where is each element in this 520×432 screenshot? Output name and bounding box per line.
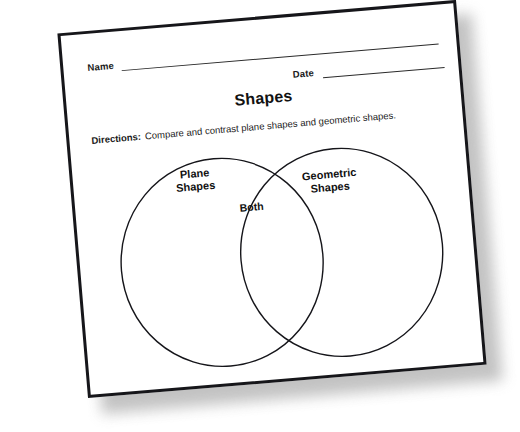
worksheet-scene: Name Date Shapes Directions:Compare and … bbox=[0, 0, 520, 432]
worksheet-content: Name Date Shapes Directions:Compare and … bbox=[61, 3, 484, 395]
venn-diagram: Plane Shapes Geometric Shapes Both bbox=[95, 132, 464, 383]
venn-circles-svg bbox=[95, 132, 464, 383]
directions-label: Directions: bbox=[91, 131, 141, 146]
name-label: Name bbox=[87, 60, 115, 73]
worksheet-paper: Name Date Shapes Directions:Compare and … bbox=[57, 0, 486, 398]
date-label: Date bbox=[292, 67, 314, 80]
